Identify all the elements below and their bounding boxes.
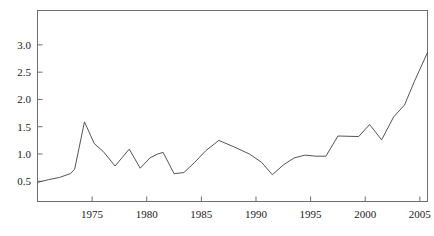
x-axis-ticks [92,197,420,202]
x-axis-tick-label: 1980 [136,209,158,220]
x-axis-tick-label: 1975 [81,209,103,220]
x-axis-tick-label: 2000 [354,209,376,220]
x-axis-tick-label: 1985 [190,209,212,220]
data-series-group [38,53,428,183]
chart-figure: 0.51.01.52.02.53.0 197519801985199019952… [0,0,434,236]
data-line-series-1 [38,53,428,183]
line-chart-plot [0,0,434,236]
y-axis-tick-label: 1.5 [0,121,31,132]
y-axis-tick-label: 3.0 [0,39,31,50]
y-axis-tick-label: 2.5 [0,67,31,78]
y-axis-tick-label: 0.5 [0,176,31,187]
y-axis-tick-label: 2.0 [0,94,31,105]
plot-frame [38,11,428,202]
y-axis-tick-label: 1.0 [0,149,31,160]
x-axis-tick-label: 2005 [409,209,431,220]
y-axis-ticks [38,45,43,181]
x-axis-tick-label: 1995 [300,209,322,220]
x-axis-tick-label: 1990 [245,209,267,220]
